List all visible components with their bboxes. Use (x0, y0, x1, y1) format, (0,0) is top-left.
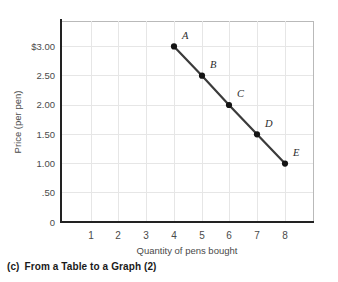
x-tick-label: 5 (199, 230, 205, 241)
x-tick-label: 2 (115, 230, 121, 241)
y-tick-label: 1.00 (37, 158, 56, 169)
point-label-b: B (210, 59, 217, 70)
vertical-gridlines (91, 21, 285, 222)
caption-index: (c) (7, 261, 20, 272)
data-point-labels: A B C D E (181, 30, 300, 158)
x-tick-label: 4 (171, 230, 177, 241)
plot-frame (61, 21, 313, 222)
figure-caption: (c)From a Table to a Graph (2) (7, 261, 157, 272)
x-tick-label: 7 (254, 230, 260, 241)
y-tick-label: 2.50 (37, 70, 56, 81)
y-tick-label: $3.00 (31, 41, 55, 52)
y-axis-title: Price (per pen) (12, 91, 23, 154)
figure-container: $3.00 2.50 2.00 1.50 1.00 .50 0 1 2 3 4 … (0, 0, 338, 282)
y-tick-label: 1.50 (37, 129, 56, 140)
data-point-c (226, 102, 232, 108)
point-label-e: E (292, 147, 300, 158)
data-point-d (254, 131, 260, 137)
x-tick-label: 6 (226, 230, 232, 241)
x-axis-tick-labels: 1 2 3 4 5 6 7 8 (88, 230, 288, 241)
price-quantity-line-chart: $3.00 2.50 2.00 1.50 1.00 .50 0 1 2 3 4 … (0, 0, 338, 258)
point-label-c: C (237, 88, 245, 99)
axis-lines (60, 19, 314, 222)
horizontal-gridlines (61, 46, 313, 193)
x-tick-label: 1 (88, 230, 94, 241)
point-label-a: A (181, 30, 189, 41)
caption-text: From a Table to a Graph (2) (25, 261, 157, 272)
x-axis-title: Quantity of pens bought (137, 245, 238, 256)
y-tick-label: .50 (42, 187, 55, 198)
y-tick-label: 2.00 (37, 99, 56, 110)
data-point-a (171, 43, 177, 49)
x-tick-label: 3 (143, 230, 149, 241)
y-tick-label: 0 (50, 217, 55, 228)
y-axis-tick-labels: $3.00 2.50 2.00 1.50 1.00 .50 0 (31, 41, 55, 228)
point-label-d: D (264, 118, 273, 129)
data-point-b (199, 73, 205, 79)
data-point-e (282, 161, 288, 167)
x-tick-label: 8 (282, 230, 288, 241)
